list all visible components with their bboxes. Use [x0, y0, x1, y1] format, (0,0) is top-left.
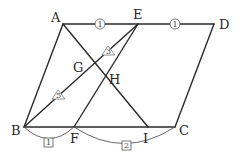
geometry-diagram: A E D B F I C G H 1 1 3 5 1 2	[0, 0, 244, 159]
svg-text:2: 2	[124, 141, 129, 150]
svg-text:1: 1	[46, 138, 51, 147]
svg-text:5: 5	[56, 91, 61, 100]
point-label-d: D	[219, 17, 229, 32]
segment-ai	[63, 24, 148, 127]
svg-text:1: 1	[172, 20, 177, 29]
point-label-h: H	[109, 72, 120, 87]
ratio-mark-bf: 1	[44, 138, 53, 147]
ratio-mark-ae: 1	[95, 19, 105, 29]
point-label-e: E	[133, 7, 143, 22]
point-label-f: F	[70, 131, 79, 146]
segment-dc	[175, 24, 214, 127]
point-label-g: G	[73, 60, 83, 75]
point-label-b: B	[11, 123, 21, 138]
segment-be	[24, 24, 138, 127]
arc-bf	[24, 127, 74, 139]
point-label-a: A	[50, 10, 61, 25]
ratio-mark-ed: 1	[170, 19, 180, 29]
point-label-i: I	[143, 131, 148, 146]
svg-text:3: 3	[106, 47, 111, 56]
svg-text:1: 1	[97, 20, 102, 29]
point-label-c: C	[179, 123, 189, 138]
segment-ab	[24, 24, 63, 127]
ratio-mark-fc: 2	[122, 141, 131, 150]
